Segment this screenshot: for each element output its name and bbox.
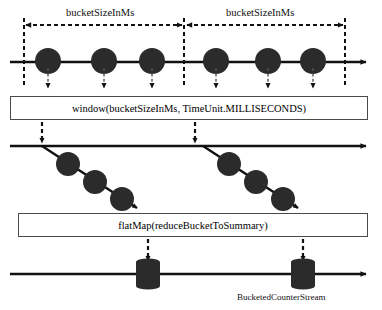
flatmap-operator-box[interactable]: flatMap(reduceBucketToSummary) <box>18 213 368 237</box>
diagram-root: bucketSizeInMs bucketSizeInMs window(buc… <box>0 0 382 310</box>
diagram-canvas <box>0 0 382 310</box>
flatmap-operator-label: flatMap(reduceBucketToSummary) <box>118 220 268 231</box>
bucketed-counter-stream-label: BucketedCounterStream <box>237 293 325 302</box>
flatmap-to-result-connectors <box>148 239 303 261</box>
window-operator-box[interactable]: window(bucketSizeInMs, TimeUnit.MILLISEC… <box>10 96 368 120</box>
bucket-size-label-left: bucketSizeInMs <box>66 8 134 19</box>
inner-stream-branch-1 <box>42 146 137 211</box>
bucket-size-label-right: bucketSizeInMs <box>226 8 294 19</box>
window-to-stream-connectors <box>42 122 195 143</box>
window-operator-label: window(bucketSizeInMs, TimeUnit.MILLISEC… <box>72 103 306 114</box>
bucket-boundary-lines <box>24 18 345 88</box>
bucket-summary-cylinder-2 <box>291 258 315 289</box>
bucket-summary-cylinder-1 <box>136 258 160 289</box>
inner-stream-branch-2 <box>203 146 298 211</box>
